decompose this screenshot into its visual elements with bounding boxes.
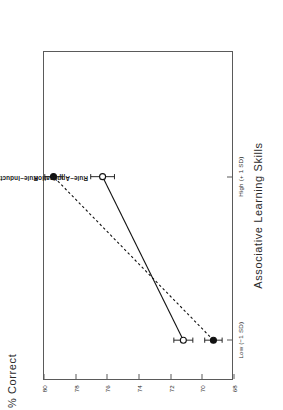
plot-svg [44, 50, 234, 379]
data-point-open-circle[interactable] [180, 337, 186, 343]
y-tick-label: 68 [231, 379, 238, 392]
rotated-chart-wrapper: % Correct Associative Learning Skills 80… [0, 0, 283, 410]
series-line-1 [103, 177, 184, 341]
y-tick-label: 80 [41, 379, 48, 392]
y-tick-label: 70 [199, 379, 206, 392]
data-layer: Rule−InductionRule−Application [44, 52, 232, 379]
y-tick-label: 76 [104, 379, 111, 392]
series-line-0 [54, 177, 214, 341]
y-axis-title: % Correct [6, 354, 18, 408]
series-label-0: Rule−Induction [0, 175, 38, 182]
figure-canvas: % Correct Associative Learning Skills 80… [0, 0, 283, 410]
y-tick-label: 74 [136, 379, 143, 392]
series-label-1: Rule−Application [34, 175, 88, 182]
y-tick-label: 72 [167, 379, 174, 392]
x-tick-label: High (+ 1 SD) [237, 157, 244, 197]
data-point-open-circle[interactable] [100, 174, 106, 180]
x-tick-label: Low (−1 SD) [237, 322, 244, 359]
data-point-filled-circle[interactable] [210, 337, 216, 343]
plot-frame: 80787674727068 Low (−1 SD)High (+ 1 SD) … [43, 51, 233, 380]
chart-area: % Correct Associative Learning Skills 80… [0, 0, 283, 410]
y-tick-label: 78 [72, 379, 79, 392]
x-axis-title: Associative Learning Skills [252, 51, 264, 380]
